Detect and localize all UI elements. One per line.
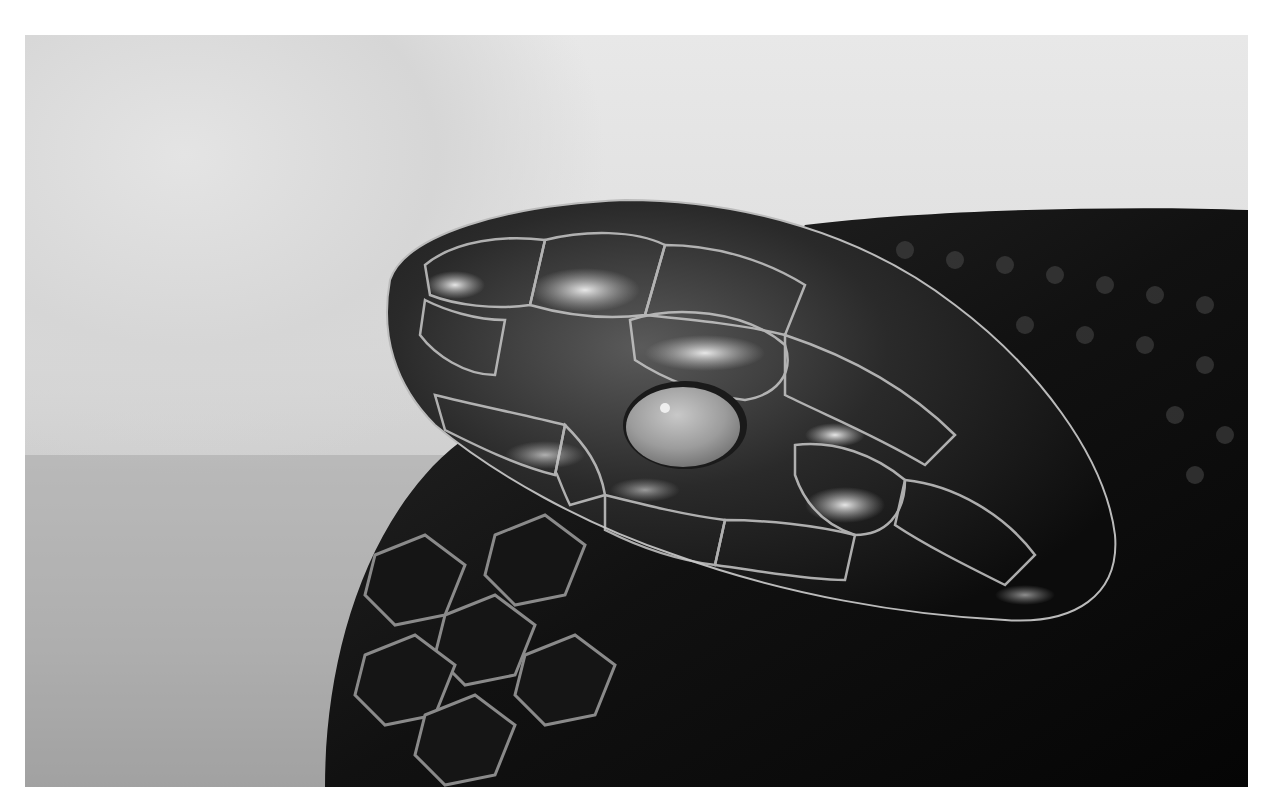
- snake-photo: [25, 35, 1248, 787]
- eye-glint: [660, 403, 670, 413]
- eye: [626, 387, 740, 467]
- snake-illustration: [25, 35, 1248, 787]
